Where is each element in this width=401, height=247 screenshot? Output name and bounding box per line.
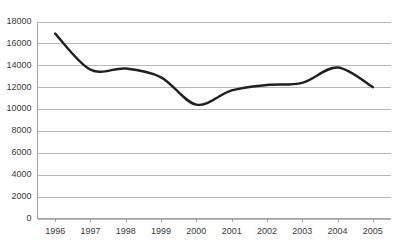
x-tick-label-2005: 2005 bbox=[363, 226, 383, 236]
y-tick-label-2000: 2000 bbox=[11, 191, 31, 201]
line-chart: 0200040006000800010000120001400016000180… bbox=[0, 0, 401, 247]
x-tick-label-2003: 2003 bbox=[292, 226, 312, 236]
y-tick-label-10000: 10000 bbox=[6, 103, 31, 113]
y-tick-label-18000: 18000 bbox=[6, 16, 31, 26]
y-tick-label-0: 0 bbox=[26, 213, 31, 223]
x-tick-label-2000: 2000 bbox=[186, 226, 206, 236]
x-tick-label-2004: 2004 bbox=[328, 226, 348, 236]
y-tick-label-12000: 12000 bbox=[6, 82, 31, 92]
y-tick-label-14000: 14000 bbox=[6, 60, 31, 70]
y-tick-label-4000: 4000 bbox=[11, 169, 31, 179]
y-tick-label-6000: 6000 bbox=[11, 147, 31, 157]
x-tick-label-2002: 2002 bbox=[257, 226, 277, 236]
x-tick-label-1997: 1997 bbox=[80, 226, 100, 236]
y-tick-label-8000: 8000 bbox=[11, 125, 31, 135]
x-tick-label-2001: 2001 bbox=[222, 226, 242, 236]
chart-background bbox=[0, 0, 401, 247]
chart-canvas: 0200040006000800010000120001400016000180… bbox=[0, 0, 401, 247]
x-tick-label-1996: 1996 bbox=[45, 226, 65, 236]
x-tick-label-1998: 1998 bbox=[116, 226, 136, 236]
y-tick-label-16000: 16000 bbox=[6, 38, 31, 48]
x-tick-label-1999: 1999 bbox=[151, 226, 171, 236]
